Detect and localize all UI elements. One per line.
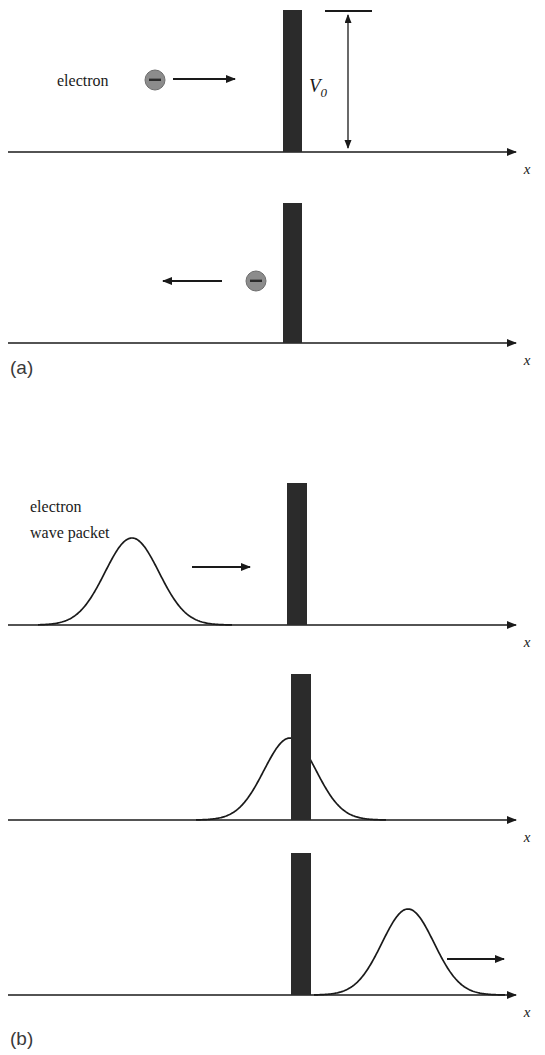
axis-label-x: x [523,161,531,177]
panel-classical-reflected: x (a) [8,203,531,378]
wave-packet-curve [314,909,505,995]
barrier-height-measure: V0 [309,11,372,148]
potential-barrier [291,853,311,995]
panel-classical-incident: x electron V0 [8,10,531,177]
potential-barrier [287,483,307,625]
panel-wave-incident: x electron wave packet [8,483,531,650]
potential-barrier [291,674,311,820]
panel-wave-tunneling: x [8,674,531,845]
axis-label-x: x [523,352,531,368]
wave-packet-curve [38,538,232,625]
barrier-height-label: V0 [309,75,328,100]
tunneling-figure: x electron V0 x (a) [0,0,545,1055]
potential-barrier [283,10,302,152]
electron-text-label: electron [57,72,109,89]
wave-packet-text-label-line1: electron [30,498,82,515]
potential-barrier [283,203,302,343]
panel-wave-transmitted: x (b) [8,853,531,1049]
electron-minus-icon [250,280,262,282]
barrier-height-subscript: 0 [321,85,328,100]
electron-minus-icon [149,79,161,81]
electron-particle [246,271,266,291]
axis-label-x: x [523,634,531,650]
wave-packet-text-label-line2: wave packet [30,524,110,542]
electron-particle [145,70,165,90]
axis-label-x: x [523,1004,531,1020]
panel-label-a: (a) [10,357,33,378]
axis-label-x: x [523,829,531,845]
panel-label-b: (b) [10,1028,33,1049]
